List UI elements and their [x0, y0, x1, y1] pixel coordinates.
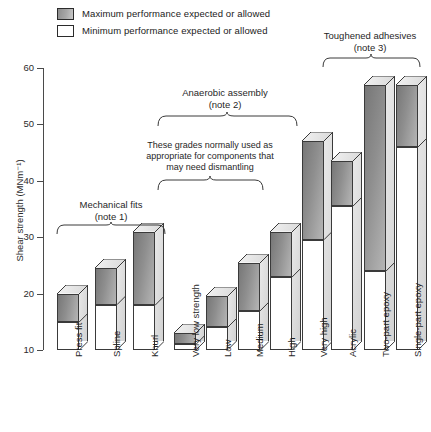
group-label-anaerobic: Anaerobic assembly (note 2): [150, 87, 300, 110]
bracket-dismantling: [157, 176, 264, 190]
group-title-toughened: Toughened adhesives: [324, 30, 416, 41]
note-dismantling-line2: appropriate for components that: [146, 151, 274, 161]
group-label-mechanical-fits: Mechanical fits (note 1): [53, 199, 169, 222]
bar-acrylic: [331, 152, 362, 350]
group-note-anaerobic: (note 2): [209, 99, 242, 110]
group-note-toughened: (note 3): [354, 42, 387, 53]
x-label-press-fit: Press fit: [73, 323, 84, 357]
bar-high: [270, 223, 301, 350]
note-dismantling-line3: may need dismantling: [166, 162, 254, 172]
chart-canvas: Maximum performance expected or allowed …: [0, 0, 431, 432]
x-label-spline: Spline: [111, 331, 122, 357]
x-label-low: Low: [222, 340, 233, 357]
bracket-anaerobic: [157, 112, 298, 126]
note-dismantling-line1: These grades normally used as: [147, 140, 273, 150]
group-title-anaerobic: Anaerobic assembly: [182, 87, 268, 98]
bracket-mechanical-fits: [56, 222, 166, 234]
group-title-mechanical: Mechanical fits: [80, 199, 143, 210]
group-label-toughened: Toughened adhesives (note 3): [314, 30, 426, 53]
x-label-acrylic: Acrylic: [347, 329, 358, 357]
x-label-single-part-epoxy: Single-part epoxy: [412, 283, 423, 357]
x-label-knurl: Knurl: [149, 335, 160, 357]
x-label-high: High: [286, 337, 297, 357]
bar-outline: [133, 223, 164, 350]
x-label-two-part-epoxy: Two-part epoxy: [380, 292, 391, 357]
x-label-very-high: Very high: [318, 317, 329, 357]
x-label-medium: Medium: [254, 323, 265, 357]
note-dismantling: These grades normally used as appropriat…: [133, 140, 287, 173]
bar-outline: [270, 223, 301, 350]
bar-outline: [331, 152, 362, 350]
x-label-very-low-strength: Very low strength: [190, 284, 201, 357]
group-note-mechanical: (note 1): [95, 211, 128, 222]
bracket-toughened: [322, 54, 421, 67]
bar-knurl: [133, 223, 164, 350]
